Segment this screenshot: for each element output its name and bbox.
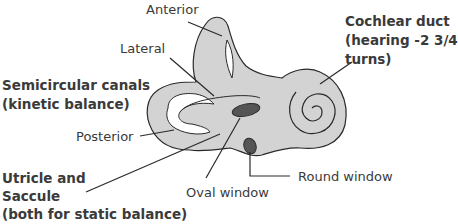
label-lateral: Lateral xyxy=(120,40,165,57)
labyrinth-body xyxy=(147,17,346,155)
label-hearing: (hearing -2 3/4 xyxy=(345,31,458,50)
label-anterior: Anterior xyxy=(146,1,198,18)
label-round-window: Round window xyxy=(298,168,393,185)
label-oval-window: Oval window xyxy=(186,184,269,201)
label-utricle: Utricle and xyxy=(2,169,86,188)
label-saccule: Saccule xyxy=(2,187,60,206)
label-posterior: Posterior xyxy=(76,128,133,145)
label-turns: turns) xyxy=(345,50,392,69)
label-static-balance: (both for static balance) xyxy=(2,205,187,224)
label-semicircular-canals: Semicircular canals xyxy=(2,76,150,95)
label-kinetic-balance: (kinetic balance) xyxy=(2,95,130,114)
label-cochlear-duct: Cochlear duct xyxy=(345,12,450,31)
